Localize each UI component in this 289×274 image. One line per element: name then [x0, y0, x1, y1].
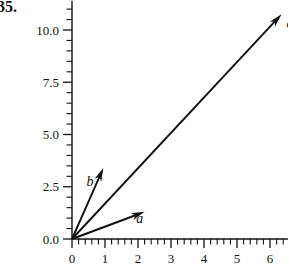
x-tick-label: 2 — [135, 251, 142, 266]
x-axis — [72, 239, 288, 248]
x-tick-label: 5 — [234, 251, 241, 266]
x-tick-label: 1 — [102, 251, 109, 266]
x-tick-label: 6 — [267, 251, 274, 266]
plot-canvas: 0.02.55.07.510.0 0123456 abc — [0, 0, 288, 274]
y-tick-label: 7.5 — [43, 75, 59, 90]
x-tick-label: 4 — [201, 251, 208, 266]
vector-c — [72, 14, 282, 239]
y-tick-label: 0.0 — [43, 232, 59, 247]
y-tick-label: 2.5 — [43, 179, 59, 194]
x-tick-label: 3 — [168, 251, 175, 266]
y-tick-label: 10.0 — [36, 23, 59, 38]
vector-label-a: a — [136, 211, 143, 226]
vector-label-c: c — [287, 16, 289, 31]
y-axis — [63, 1, 72, 239]
vector-label-b: b — [87, 174, 94, 189]
vector-arrow-labels: abc — [87, 16, 288, 226]
y-axis-tick-labels: 0.02.55.07.510.0 — [36, 23, 59, 247]
vector-plot-figure: 35. 0.02.55.07.510.0 0123456 abc — [0, 0, 288, 274]
vector-arrows — [72, 14, 282, 239]
y-tick-label: 5.0 — [43, 127, 59, 142]
x-tick-label: 0 — [69, 251, 76, 266]
x-axis-tick-labels: 0123456 — [69, 251, 274, 266]
